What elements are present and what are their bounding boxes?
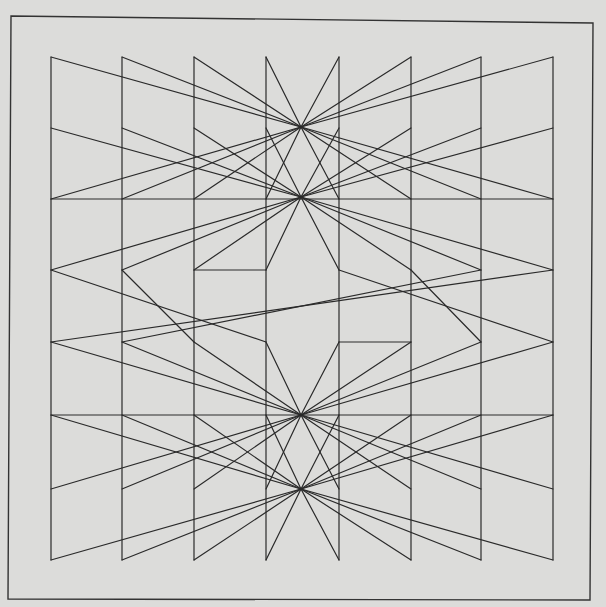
line-segment bbox=[51, 57, 301, 127]
line-segment bbox=[301, 197, 411, 270]
line-segment bbox=[301, 197, 481, 270]
outer-frame bbox=[8, 16, 593, 600]
line-segment bbox=[411, 270, 481, 342]
line-segment bbox=[122, 197, 301, 270]
line-segment bbox=[301, 57, 411, 127]
line-segment bbox=[301, 489, 411, 560]
line-segment bbox=[122, 489, 301, 560]
line-segment bbox=[301, 489, 481, 560]
line-segment bbox=[266, 197, 301, 270]
line-segment bbox=[301, 489, 339, 560]
line-segment bbox=[51, 342, 301, 415]
line-segment bbox=[122, 342, 301, 415]
geometric-line-artwork bbox=[0, 0, 606, 607]
line-segment bbox=[301, 342, 411, 415]
line-segment bbox=[122, 57, 301, 127]
line-segment bbox=[266, 57, 301, 127]
line-segment bbox=[51, 197, 301, 270]
line-segment bbox=[51, 489, 301, 560]
line-segment bbox=[122, 270, 481, 342]
line-segment bbox=[122, 270, 194, 342]
line-segment bbox=[301, 57, 339, 127]
line-segment bbox=[301, 342, 339, 415]
line-segment bbox=[301, 342, 481, 415]
line-group bbox=[51, 57, 553, 560]
line-segment bbox=[301, 197, 339, 270]
line-segment bbox=[301, 57, 481, 127]
line-segment bbox=[266, 342, 301, 415]
line-segment bbox=[266, 489, 301, 560]
